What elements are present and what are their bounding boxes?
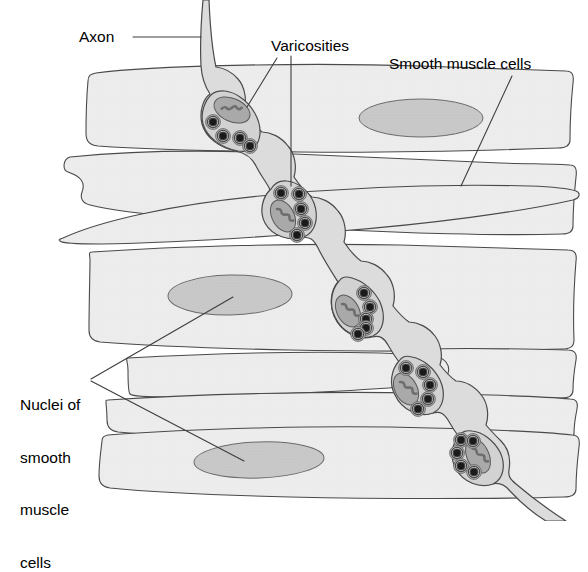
smooth-muscle-nucleus bbox=[359, 99, 483, 137]
label-nuclei-line-2: smooth bbox=[20, 449, 80, 467]
smooth-muscle-cell bbox=[86, 64, 573, 152]
label-smooth-muscle-cells: Smooth muscle cells bbox=[389, 55, 531, 72]
label-varicosities: Varicosities bbox=[271, 37, 349, 54]
label-nuclei-line-3: muscle bbox=[20, 501, 80, 519]
label-nuclei-line-4: cells bbox=[20, 554, 80, 572]
label-nuclei-line-1: Nuclei of bbox=[20, 396, 80, 414]
label-nuclei-of-smooth-muscle-cells: Nuclei of smooth muscle cells bbox=[20, 361, 80, 572]
smooth-muscle-cells-group bbox=[59, 64, 579, 498]
label-axon: Axon bbox=[79, 28, 114, 45]
